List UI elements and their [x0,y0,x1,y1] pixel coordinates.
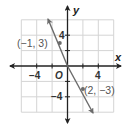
point-neg1-3 [58,41,62,45]
x-tick-4: 4 [95,70,101,81]
y-tick-4: 4 [59,30,65,41]
y-tick-neg4: −4 [51,91,63,102]
point-label-2-neg3: (2, −3) [84,84,115,96]
point-label-neg1-3: (−1, 3) [17,37,48,49]
coordinate-graph: y x O −4 4 4 −4 (−1, 3) (2, −3) [0,0,130,127]
y-axis-label: y [72,4,80,16]
x-tick-neg4: −4 [29,70,41,81]
origin-label: O [55,70,63,81]
x-axis-label: x [114,51,122,63]
plotted-line [48,19,68,66]
